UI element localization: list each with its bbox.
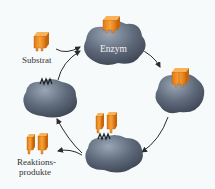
enzyme-free-top — [84, 16, 146, 65]
product-right-icon — [107, 112, 117, 133]
enzyme-label: Enzym — [100, 44, 127, 54]
products-label-line2: produkte — [19, 167, 51, 177]
product-left-icon — [96, 113, 104, 133]
reaction-products-icon — [27, 133, 48, 154]
substrate-molecule-icon — [34, 32, 49, 51]
arrow-complex-to-product — [142, 117, 168, 152]
enzyme-cycle-diagram: Substrat Enzym Reaktions- produkte — [0, 0, 215, 189]
enzyme-product-complex — [85, 112, 143, 173]
arrow-substrate-to-enzyme — [56, 47, 80, 52]
products-label-line1: Reaktions- — [17, 157, 56, 167]
arrow-product-to-left-enzyme — [57, 119, 82, 153]
substrate-label: Substrat — [22, 55, 52, 65]
arrow-left-enzyme-to-top — [58, 51, 80, 80]
enzyme-free-left — [23, 79, 77, 118]
arrow-product-to-release — [58, 150, 82, 155]
enzyme-substrate-complex — [155, 68, 204, 113]
